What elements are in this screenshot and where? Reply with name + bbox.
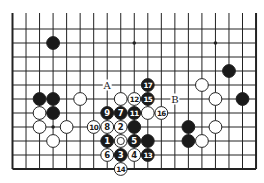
white-stone-4: 4 (128, 149, 141, 162)
move-number-label: 6 (104, 150, 110, 160)
star-point-icon (51, 125, 55, 129)
move-number-label: 11 (130, 109, 139, 118)
white-stone (47, 135, 60, 148)
white-stone (114, 135, 127, 148)
black-stone (236, 93, 249, 106)
black-stone-icon (141, 135, 154, 148)
move-number-label: 4 (131, 150, 137, 160)
white-stone (114, 93, 127, 106)
black-stone (223, 65, 236, 78)
move-number-label: 12 (130, 95, 139, 104)
black-stone-3: 3 (114, 149, 127, 162)
black-stone-9: 9 (101, 107, 114, 120)
black-stone-icon (47, 107, 60, 120)
move-number-label: 16 (157, 109, 166, 118)
white-stone-2: 2 (114, 121, 127, 134)
move-number-label: 7 (118, 108, 124, 118)
black-stone-17: 17 (141, 79, 154, 92)
white-stone (209, 93, 222, 106)
move-number-label: 15 (143, 95, 152, 104)
star-point-icon (214, 41, 218, 45)
move-number-label: 2 (118, 122, 124, 132)
move-number-label: 1 (104, 136, 110, 146)
black-stone-15: 15 (141, 93, 154, 106)
black-stone-icon (47, 93, 60, 106)
white-stone (209, 121, 222, 134)
white-stone-icon (114, 93, 127, 106)
black-stone-7: 7 (114, 107, 127, 120)
white-stone-icon (196, 79, 209, 92)
black-stone (47, 107, 60, 120)
move-number-label: 3 (118, 150, 124, 160)
move-number-label: 17 (143, 81, 152, 90)
white-stone-6: 6 (101, 149, 114, 162)
white-stone (141, 107, 154, 120)
black-stone (47, 93, 60, 106)
black-stone-icon (182, 121, 195, 134)
black-stone-icon (223, 65, 236, 78)
black-stone (47, 37, 60, 50)
black-stone-13: 13 (141, 149, 154, 162)
point-labels-layer: AB (103, 80, 180, 105)
white-stone (33, 107, 46, 120)
white-stone-icon (114, 135, 127, 148)
black-stone (33, 93, 46, 106)
black-stone-11: 11 (128, 107, 141, 120)
white-stone (196, 79, 209, 92)
move-number-label: 9 (104, 108, 110, 118)
white-stone-8: 8 (101, 121, 114, 134)
point-label-b: B (171, 94, 178, 105)
black-stone-icon (236, 93, 249, 106)
white-stone-icon (74, 93, 87, 106)
star-point-icon (132, 41, 136, 45)
black-stone (128, 121, 141, 134)
move-number-label: 13 (143, 151, 152, 160)
move-number-label: 10 (89, 123, 98, 132)
white-stone-icon (60, 121, 73, 134)
white-stone-icon (47, 135, 60, 148)
white-stone-icon (196, 135, 209, 148)
move-number-label: 14 (116, 165, 125, 174)
black-stone (182, 135, 195, 148)
white-stone-icon (209, 121, 222, 134)
white-stone-icon (141, 107, 154, 120)
point-label-a: A (103, 80, 112, 91)
white-stone (74, 93, 87, 106)
white-stone-icon (209, 93, 222, 106)
black-stone-icon (128, 121, 141, 134)
black-stone-icon (47, 37, 60, 50)
white-stone (196, 135, 209, 148)
black-stone (182, 121, 195, 134)
white-stone-10: 10 (87, 121, 100, 134)
black-stone-5: 5 (128, 135, 141, 148)
white-stone-12: 12 (128, 93, 141, 106)
white-stone (33, 121, 46, 134)
black-stone-icon (182, 135, 195, 148)
white-stone-14: 14 (114, 163, 127, 176)
black-stone-1: 1 (101, 135, 114, 148)
white-stone-icon (33, 121, 46, 134)
go-board-diagram: 1712159711161082156341314 AB (0, 0, 264, 183)
white-stone-16: 16 (155, 107, 168, 120)
white-stone-icon (33, 107, 46, 120)
move-number-label: 8 (104, 122, 110, 132)
white-stone (60, 121, 73, 134)
move-number-label: 5 (131, 136, 137, 146)
black-stone (141, 135, 154, 148)
black-stone-icon (33, 93, 46, 106)
